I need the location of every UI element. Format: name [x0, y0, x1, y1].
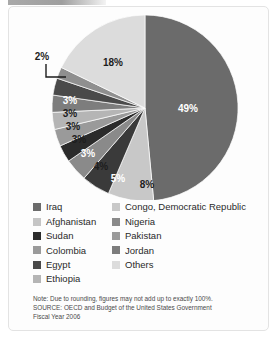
legend-color-swatch	[33, 218, 41, 226]
legend-item-label: Nigeria	[125, 217, 155, 227]
legend-item[interactable]: Jordan	[112, 243, 262, 257]
legend-item-label: Ethiopia	[46, 274, 80, 284]
legend-color-swatch	[33, 246, 41, 254]
legend-color-swatch	[112, 261, 120, 269]
footnote-fiscal-year-line: Fiscal Year 2006	[33, 312, 258, 321]
pie-slice-value-label: 3%	[81, 148, 96, 159]
legend-column-left: IraqAfghanistanSudanColombiaEgyptEthiopi…	[33, 200, 111, 286]
legend-item-label: Pakistan	[125, 231, 161, 241]
footnote-source-line: SOURCE: OECD and Budget of the United St…	[33, 303, 258, 312]
legend-item-label: Afghanistan	[46, 217, 96, 227]
legend-item[interactable]: Pakistan	[112, 229, 262, 243]
pie-slice-group	[52, 15, 238, 200]
legend-item-label: Colombia	[46, 246, 86, 256]
legend-color-swatch	[112, 203, 120, 211]
legend-item[interactable]: Ethiopia	[33, 272, 111, 286]
legend-item-label: Jordan	[125, 246, 154, 256]
legend-color-swatch	[33, 232, 41, 240]
legend-column-right: Congo, Democratic RepublicNigeriaPakista…	[112, 200, 262, 272]
footnote-note-line: Note: Due to rounding, figures may not a…	[33, 294, 258, 303]
legend-item-label: Iraq	[46, 202, 62, 212]
pie-slice-value-label: 3%	[63, 108, 78, 119]
chart-footnote: Note: Due to rounding, figures may not a…	[33, 294, 258, 322]
legend-color-swatch	[33, 261, 41, 269]
pie-chart-area: 49%8%5%4%3%3%3%3%3%18% 2%	[0, 0, 277, 200]
legend-color-swatch	[33, 203, 41, 211]
legend-item-label: Others	[125, 260, 154, 270]
pie-slice-value-label: 8%	[140, 179, 155, 190]
pie-slice-value-label: 5%	[111, 173, 126, 184]
legend-item[interactable]: Iraq	[33, 200, 111, 214]
legend-color-swatch	[33, 275, 41, 283]
pie-chart-svg: 49%8%5%4%3%3%3%3%3%18% 2%	[0, 0, 277, 200]
legend-color-swatch	[112, 246, 120, 254]
legend-item[interactable]: Nigeria	[112, 214, 262, 228]
pie-slice-value-label: 49%	[178, 103, 198, 114]
legend-item-label: Sudan	[46, 231, 73, 241]
legend-item[interactable]: Congo, Democratic Republic	[112, 200, 262, 214]
legend-item[interactable]: Sudan	[33, 229, 111, 243]
legend-item[interactable]: Egypt	[33, 258, 111, 272]
legend-item[interactable]: Others	[112, 258, 262, 272]
pie-slice-value-label: 3%	[66, 121, 81, 132]
pie-slice-value-label: 4%	[94, 161, 109, 172]
legend-color-swatch	[112, 218, 120, 226]
legend-item-label: Egypt	[46, 260, 70, 270]
legend-item[interactable]: Colombia	[33, 243, 111, 257]
legend-item-label: Congo, Democratic Republic	[125, 202, 246, 212]
pie-slice-value-label: 18%	[103, 57, 123, 68]
pie-slice-value-label: 3%	[72, 134, 87, 145]
pie-callout-value-label: 2%	[35, 51, 50, 62]
legend-color-swatch	[112, 232, 120, 240]
pie-slice-value-label: 3%	[63, 95, 78, 106]
legend-item[interactable]: Afghanistan	[33, 214, 111, 228]
